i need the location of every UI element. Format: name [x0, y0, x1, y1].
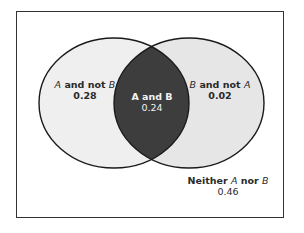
value-a-not-b: 0.28	[50, 90, 120, 101]
value-b-not-a: 0.02	[185, 90, 255, 101]
value-neither: 0.46	[183, 186, 273, 197]
region-b-not-a: B and not A 0.02	[185, 79, 255, 101]
value-a-and-b: 0.24	[121, 102, 183, 113]
region-neither: Neither A nor B 0.46	[183, 175, 273, 197]
region-a-not-b: A and not B 0.28	[50, 79, 120, 101]
venn-diagram	[0, 0, 304, 233]
region-a-and-b: A and B 0.24	[121, 91, 183, 113]
